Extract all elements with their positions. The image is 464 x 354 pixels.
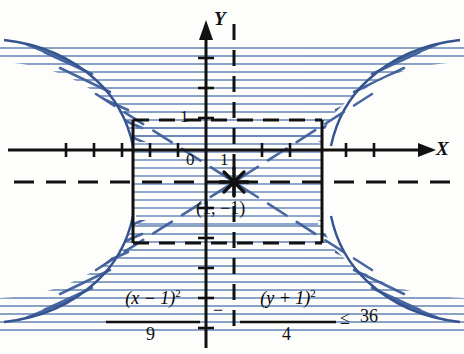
equation-term-1: (x − 1)2 <box>106 288 200 308</box>
equation-term-2: (y + 1)2 <box>240 288 336 308</box>
x-axis-label: X <box>436 138 449 160</box>
hyperbola-diagram <box>0 0 464 354</box>
figure-canvas: X Y 0 1 1 (1, −1) (x − 1)2 9 − (y + 1)2 … <box>0 0 464 354</box>
equation-term-1-power: 2 <box>175 287 181 299</box>
equation-rhs: 36 <box>360 306 378 327</box>
x-unit-tick-label: 1 <box>220 150 229 170</box>
y-unit-tick-label: 1 <box>180 107 189 127</box>
equation-term-2-numerator: (y + 1)2 <box>257 288 319 308</box>
star-marker <box>220 168 248 196</box>
equation-term-2-denominator: 4 <box>282 324 291 345</box>
equation-term-2-numerator-text: (y + 1) <box>260 288 310 308</box>
equation-term-2-power: 2 <box>310 287 316 299</box>
y-axis-label: Y <box>214 8 226 30</box>
equation-operator: − <box>209 300 227 321</box>
equation-term-1-numerator-text: (x − 1) <box>125 288 175 308</box>
equation-term-1-numerator: (x − 1)2 <box>122 288 184 308</box>
equation-term-1-denominator: 9 <box>146 324 155 345</box>
origin-label: 0 <box>186 150 195 170</box>
center-point-label: (1, −1) <box>196 198 245 219</box>
equation-relation: ≤ <box>340 308 350 329</box>
shaded-region-upper <box>0 44 464 176</box>
